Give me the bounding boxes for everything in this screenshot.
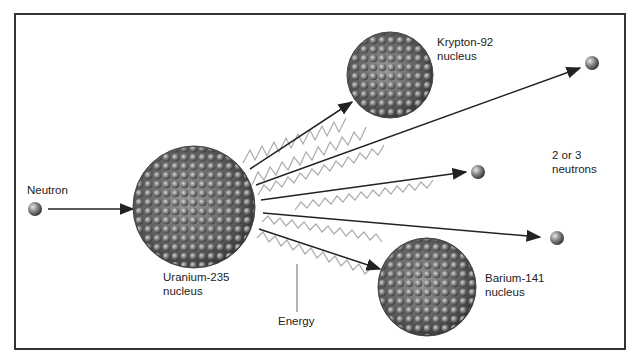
neutrons-label-line2: neutrons [552, 162, 597, 176]
neutron-arrow-3 [263, 213, 540, 237]
krypton-label-line1: Krypton-92 [437, 35, 493, 49]
krypton-label-line2: nucleus [437, 49, 493, 63]
neutrons-label: 2 or 3 neutrons [552, 148, 597, 176]
neutron-icon [585, 56, 599, 70]
neutron-icon [28, 202, 42, 216]
fission-diagram [0, 0, 635, 360]
energy-label: Energy [278, 314, 314, 328]
neutron-label: Neutron [27, 183, 68, 197]
neutrons-label-line1: 2 or 3 [552, 148, 597, 162]
neutron-icon [550, 231, 564, 245]
uranium-label-line1: Uranium-235 [163, 270, 229, 284]
barium-label: Barium-141 nucleus [485, 271, 544, 299]
uranium-label-line2: nucleus [163, 284, 229, 298]
barium-label-line2: nucleus [485, 285, 544, 299]
neutron-arrow-2 [261, 172, 466, 200]
krypton-label: Krypton-92 nucleus [437, 35, 493, 63]
barium-label-line1: Barium-141 [485, 271, 544, 285]
krypton-92-nucleus [347, 32, 433, 118]
barium-arrow [259, 229, 380, 269]
uranium-label: Uranium-235 nucleus [163, 270, 229, 298]
barium-141-nucleus [378, 238, 476, 336]
uranium-235-nucleus [133, 146, 255, 268]
neutron-icon [471, 165, 485, 179]
krypton-arrow [250, 102, 352, 169]
